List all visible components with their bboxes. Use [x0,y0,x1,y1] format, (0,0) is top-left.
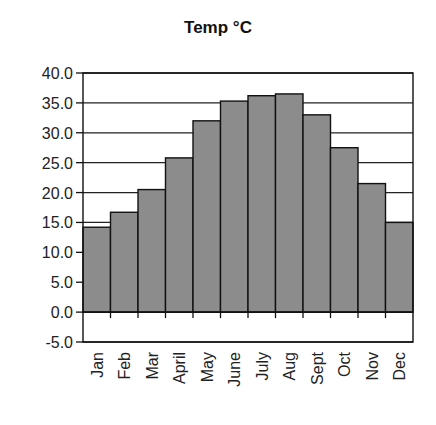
bar-mar [138,190,166,313]
y-tick-label: 35.0 [42,95,73,112]
x-category-label: Aug [281,352,298,380]
bar-june [221,101,249,312]
x-category-label: Oct [336,351,353,376]
bar-sept [303,115,331,312]
y-tick-label: -5.0 [45,334,73,351]
y-tick-label: 25.0 [42,155,73,172]
bar-april [166,158,194,312]
bar-may [193,121,221,312]
bar-nov [358,184,386,313]
bar-oct [331,148,359,312]
x-category-label: July [254,352,271,380]
x-category-label: April [171,352,188,384]
y-tick-label: 20.0 [42,185,73,202]
bar-dec [386,222,414,312]
bar-feb [111,212,139,312]
y-tick-label: 40.0 [42,65,73,82]
x-category-label: Mar [144,351,161,379]
y-tick-label: 10.0 [42,244,73,261]
bar-chart: -5.00.05.010.015.020.025.030.035.040.0Ja… [0,0,436,425]
x-category-label: June [226,352,243,387]
x-category-label: Jan [89,352,106,378]
x-category-label: Nov [364,352,381,380]
y-tick-label: 5.0 [51,274,73,291]
bar-july [248,96,276,312]
x-category-label: May [199,352,216,382]
bar-jan [83,227,111,312]
y-tick-label: 0.0 [51,304,73,321]
x-category-label: Dec [391,352,408,380]
y-tick-label: 15.0 [42,214,73,231]
x-category-label: Feb [116,352,133,380]
bar-aug [276,94,304,312]
x-category-label: Sept [309,351,326,384]
y-tick-label: 30.0 [42,125,73,142]
